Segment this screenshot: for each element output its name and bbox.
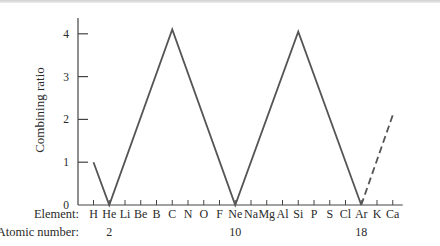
x-tick-label-be: Be	[134, 207, 147, 221]
atomic-number-label: 18	[355, 225, 367, 239]
x-axis-label-element: Element:	[34, 207, 79, 221]
combining-ratio-chart: 01234 HHeLiBeBCNOFNeNaMgAlSiPSClArKCa210…	[0, 0, 440, 246]
x-ticks: HHeLiBeBCNOFNeNaMgAlSiPSClArKCa21018	[89, 200, 400, 239]
x-tick-label-f: F	[216, 207, 223, 221]
x-tick-label-al: Al	[277, 207, 290, 221]
x-tick-label-si: Si	[293, 207, 304, 221]
x-tick-label-he: He	[102, 207, 116, 221]
x-tick-label-ne: Ne	[228, 207, 242, 221]
x-tick-label-p: P	[311, 207, 318, 221]
series-line-observed	[94, 30, 362, 205]
atomic-number-label: 2	[106, 225, 112, 239]
atomic-number-label: 10	[229, 225, 241, 239]
x-tick-label-k: K	[373, 207, 382, 221]
x-tick-label-li: Li	[120, 207, 131, 221]
series-line-extrapolated	[361, 115, 393, 205]
x-tick-label-ca: Ca	[386, 207, 400, 221]
x-tick-label-c: C	[168, 207, 176, 221]
x-tick-label-mg: Mg	[258, 207, 275, 221]
x-tick-label-s: S	[326, 207, 333, 221]
y-axis-label: Combining ratio	[32, 67, 47, 153]
y-tick-label: 1	[63, 156, 69, 168]
y-tick-label: 2	[63, 113, 69, 125]
y-tick-label: 3	[63, 71, 69, 83]
x-axis-label-atomic-number: Atomic number:	[0, 225, 79, 239]
x-tick-label-n: N	[184, 207, 193, 221]
x-tick-label-ar: Ar	[355, 207, 368, 221]
x-tick-label-o: O	[199, 207, 208, 221]
y-tick-label: 4	[63, 28, 69, 40]
axes	[78, 18, 403, 205]
series-lines	[93, 30, 392, 206]
x-tick-label-h: H	[89, 207, 98, 221]
x-tick-label-na: Na	[244, 207, 259, 221]
x-tick-label-cl: Cl	[340, 207, 352, 221]
x-tick-label-b: B	[152, 207, 160, 221]
y-ticks: 01234	[63, 28, 88, 211]
